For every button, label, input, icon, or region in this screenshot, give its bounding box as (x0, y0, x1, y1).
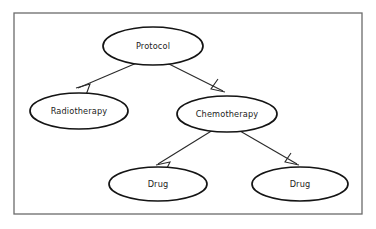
node-protocol[interactable]: Protocol (103, 27, 203, 65)
node-label: Drug (290, 179, 311, 189)
edge-line (163, 61, 223, 91)
node-label: Protocol (136, 41, 170, 51)
node-label: Drug (148, 179, 169, 189)
edge-line (240, 131, 297, 164)
node-label: Radiotherapy (51, 106, 108, 116)
diagram-svg: Protocol Radiotherapy Chemotherapy Drug … (0, 0, 376, 229)
node-drug-left[interactable]: Drug (109, 167, 207, 201)
node-radiotherapy[interactable]: Radiotherapy (30, 93, 128, 129)
node-chemotherapy[interactable]: Chemotherapy (177, 96, 277, 132)
node-layer: Protocol Radiotherapy Chemotherapy Drug … (30, 27, 348, 201)
edge-chemotherapy-to-drug-right (240, 131, 299, 165)
edge-protocol-to-radiotherapy (76, 62, 139, 95)
arrowhead-icon (285, 153, 299, 165)
edge-protocol-to-chemotherapy (163, 61, 225, 92)
edge-line (78, 62, 139, 88)
arrowhead-icon (211, 79, 225, 92)
diagram-canvas: Protocol Radiotherapy Chemotherapy Drug … (0, 0, 376, 229)
node-label: Chemotherapy (196, 109, 259, 119)
edge-line (158, 130, 213, 164)
node-drug-right[interactable]: Drug (252, 167, 348, 201)
edge-chemotherapy-to-drug-left (156, 130, 213, 172)
